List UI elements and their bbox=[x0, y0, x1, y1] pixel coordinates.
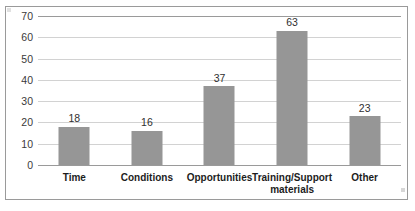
y-tick-label-10: 10 bbox=[21, 138, 33, 149]
bar-slot-conditions: 16 Conditions bbox=[111, 16, 184, 165]
chart-frame: 70 60 50 40 30 20 10 0 18 Time bbox=[5, 6, 408, 200]
bar-opportunities[interactable] bbox=[204, 86, 235, 165]
y-tick-label-70: 70 bbox=[21, 11, 33, 22]
gridline-0: 0 bbox=[38, 165, 401, 166]
y-tick-label-30: 30 bbox=[21, 96, 33, 107]
corner-mark-top-left bbox=[7, 8, 11, 12]
y-tick-label-60: 60 bbox=[21, 32, 33, 43]
bar-conditions[interactable] bbox=[131, 131, 162, 165]
bar-slot-opportunities: 37 Opportunities bbox=[183, 16, 256, 165]
bar-value-training-support-materials: 63 bbox=[286, 17, 298, 28]
bar-slot-other: 23 Other bbox=[328, 16, 401, 165]
bar-slot-training-support-materials: 63 Training/Support materials bbox=[256, 16, 329, 165]
bar-other[interactable] bbox=[349, 116, 380, 165]
bar-value-other: 23 bbox=[359, 103, 371, 114]
bar-value-opportunities: 37 bbox=[214, 73, 226, 84]
bar-slot-time: 18 Time bbox=[38, 16, 111, 165]
y-tick-label-20: 20 bbox=[21, 117, 33, 128]
bar-training-support-materials[interactable] bbox=[277, 31, 308, 165]
y-tick-label-40: 40 bbox=[21, 75, 33, 86]
bar-value-time: 18 bbox=[68, 113, 80, 124]
corner-mark-bottom-right bbox=[401, 188, 405, 192]
y-tick-label-50: 50 bbox=[21, 53, 33, 64]
bar-value-conditions: 16 bbox=[141, 117, 153, 128]
y-tick-label-0: 0 bbox=[27, 160, 33, 171]
category-label-other: Other bbox=[322, 172, 408, 184]
plot-area: 70 60 50 40 30 20 10 0 18 Time bbox=[38, 16, 401, 165]
bar-time[interactable] bbox=[59, 127, 90, 165]
